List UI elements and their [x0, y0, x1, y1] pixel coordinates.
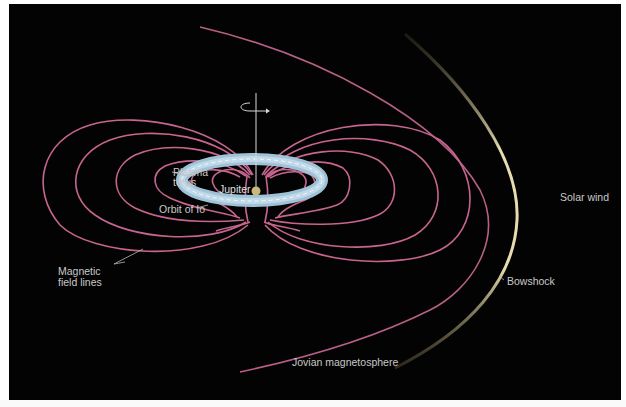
magnetic-field-lines-label-line2: field lines — [58, 277, 102, 288]
orbit-of-io-label: Orbit of Io — [159, 204, 205, 215]
diagram-graphic — [9, 4, 621, 400]
rotation-arrow-icon — [241, 103, 266, 111]
caption-strip — [0, 400, 626, 407]
jovian-magnetosphere-label: Jovian magnetosphere — [292, 357, 398, 368]
bowshock-label: Bowshock — [507, 276, 555, 287]
plasma-torus-label-line2: torus — [173, 177, 196, 188]
jupiter-planet — [252, 187, 261, 196]
jupiter-label: Jupiter — [219, 184, 251, 195]
magnetosphere-diagram: Plasma torus Jupiter Orbit of Io Magneti… — [9, 4, 621, 400]
solar-wind-label: Solar wind — [560, 192, 609, 203]
